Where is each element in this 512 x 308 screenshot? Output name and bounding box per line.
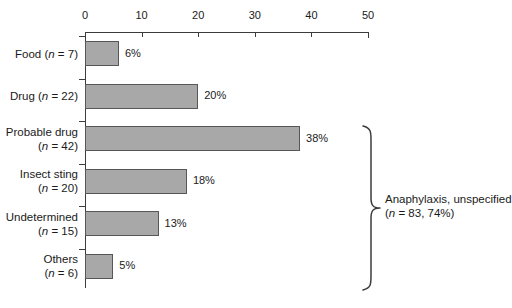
category-label: Others(n = 6) [43, 252, 78, 280]
x-tick-30 [255, 32, 256, 37]
group-annotation-line1: Anaphylaxis, unspecified [385, 192, 512, 206]
y-tick-1 [79, 79, 85, 80]
y-tick-0 [79, 36, 85, 37]
category-label: Probable drug(n = 42) [6, 125, 78, 153]
bar-value-label: 13% [165, 218, 187, 229]
bar[interactable] [85, 41, 119, 66]
bar[interactable] [85, 169, 187, 194]
x-tick-20 [198, 32, 199, 37]
bar-value-label: 18% [193, 175, 215, 186]
x-tick-label-40: 40 [296, 10, 326, 21]
x-tick-40 [311, 32, 312, 37]
group-annotation-label: Anaphylaxis, unspecified (n = 83, 74%) [385, 192, 512, 220]
group-brace [360, 124, 386, 296]
bar-value-label: 6% [125, 48, 141, 59]
category-label: Insect sting(n = 20) [20, 167, 78, 195]
bar-value-label: 20% [204, 90, 226, 101]
y-axis-line [85, 32, 86, 288]
bar[interactable] [85, 126, 300, 151]
x-tick-label-20: 20 [183, 10, 213, 21]
y-tick-5 [79, 249, 85, 250]
x-tick-label-10: 10 [127, 10, 157, 21]
y-tick-3 [79, 164, 85, 165]
x-tick-50 [368, 32, 369, 37]
category-label: Undetermined(n = 15) [6, 210, 78, 238]
x-tick-label-30: 30 [240, 10, 270, 21]
bar[interactable] [85, 211, 159, 236]
curly-brace-icon [360, 124, 386, 292]
bar[interactable] [85, 84, 198, 109]
category-label: Drug (n = 22) [10, 89, 78, 103]
x-tick-label-50: 50 [353, 10, 383, 21]
category-label: Food (n = 7) [15, 47, 78, 61]
x-tick-10 [142, 32, 143, 37]
y-tick-4 [79, 206, 85, 207]
bar[interactable] [85, 254, 113, 279]
group-annotation-line2: (n = 83, 74%) [385, 206, 512, 220]
bar-value-label: 38% [306, 133, 328, 144]
bar-value-label: 5% [119, 260, 135, 271]
y-tick-2 [79, 121, 85, 122]
x-axis-line [85, 32, 368, 33]
x-tick-label-0: 0 [70, 10, 100, 21]
